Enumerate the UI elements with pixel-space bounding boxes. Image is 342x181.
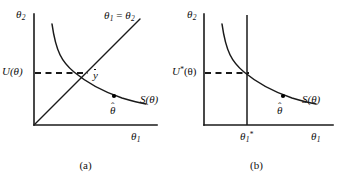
panel-b-plot [171,0,342,181]
utility-star-label-b: U*(θ) [172,66,197,77]
panel-a-caption: (a) [0,159,171,171]
panel-b: θ2 θ1 U*(θ) θ1* ̂θ S(θ) (b) [171,0,342,181]
y-axis-label-a: θ2 [16,9,25,22]
diagonal-label-a: θ1 = θ2 [104,10,135,23]
theta-hat-label-a: ̂θ [110,105,115,116]
panel-a: θ2 θ1 θ1 = θ2 U(θ) y ̂θ S(θ) (a) [0,0,171,181]
utility-level-label-a: U(θ) [2,66,23,77]
x-axis-label-b: θ1 [311,131,320,144]
figure-root: θ2 θ1 θ1 = θ2 U(θ) y ̂θ S(θ) (a) θ2 θ1 U… [0,0,342,181]
theta-hat-marker-a [112,94,116,98]
score-curve-label-b: S(θ) [302,94,320,105]
intersection-point-label-a: y [93,70,98,81]
diagonal-line-a [35,19,140,124]
score-curve-b [222,24,316,104]
theta-hat-marker-b [281,94,285,98]
x-axis-tick-label-b: θ1* [240,131,253,144]
y-axis-label-b: θ2 [187,9,196,22]
theta-hat-label-b: ̂θ [277,105,282,116]
panel-b-caption: (b) [171,159,342,171]
panel-a-plot [0,0,171,181]
x-axis-label-a: θ1 [131,131,140,144]
score-curve-label-a: S(θ) [140,94,158,105]
